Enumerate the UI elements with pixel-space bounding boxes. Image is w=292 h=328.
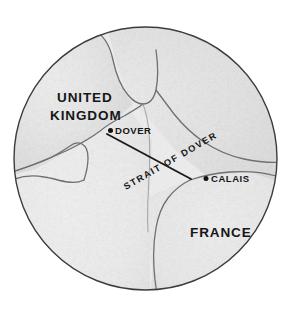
map-canvas: UNITED KINGDOM FRANCE DOVER CALAIS STRAI… <box>0 0 292 328</box>
relief-texture-overlay <box>0 0 292 328</box>
map-interior: UNITED KINGDOM FRANCE DOVER CALAIS STRAI… <box>0 0 292 328</box>
label-calais: CALAIS <box>211 173 250 184</box>
city-marker-calais <box>204 176 209 181</box>
label-france: FRANCE <box>190 225 252 240</box>
map-figure: UNITED KINGDOM FRANCE DOVER CALAIS STRAI… <box>0 0 292 328</box>
label-united-kingdom-line2: KINGDOM <box>50 108 122 123</box>
label-united-kingdom-line1: UNITED <box>57 90 113 105</box>
label-dover: DOVER <box>115 125 152 136</box>
city-marker-dover <box>108 128 113 133</box>
